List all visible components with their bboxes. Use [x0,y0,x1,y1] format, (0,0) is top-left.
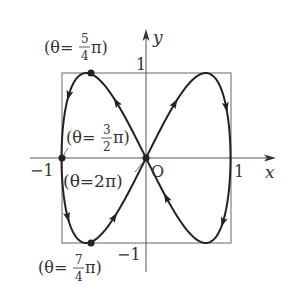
svg-text:4: 4 [81,49,89,63]
annotation-theta-5-4: (θ= 5 4 π) [44,32,108,63]
parametric-curve-figure: x y O 1 −1 1 −1 (θ= 5 4 π) (θ= 3 2 π) (θ… [0,0,295,298]
svg-text:π): π) [113,128,130,147]
y-axis-label: y [152,27,163,47]
svg-text:5: 5 [81,32,89,46]
origin-label: O [151,162,164,181]
direction-arrow-icon [218,216,228,228]
svg-text:π): π) [85,258,102,277]
direction-arrow-icon [64,90,73,102]
annotation-theta-3-2: (θ= 3 2 π) [66,123,130,154]
svg-text:3: 3 [103,123,111,137]
leader-theta-3-2 [63,148,68,156]
direction-arrow-icon [161,191,172,203]
svg-text:(θ=: (θ= [66,128,95,147]
direction-arrow-icon [169,97,180,109]
tick-y-pos: 1 [136,55,146,74]
tick-x-pos: 1 [234,162,244,181]
annotation-theta-2pi: (θ=2π) [63,171,123,191]
point-theta-3-2 [59,155,66,162]
x-axis-label: x [265,162,275,182]
svg-text:2: 2 [103,140,111,154]
point-theta-5-4 [88,70,95,77]
tick-x-neg: −1 [30,161,54,180]
svg-text:7: 7 [75,253,83,267]
tick-y-neg: −1 [117,245,141,264]
diagram-canvas: x y O 1 −1 1 −1 (θ= 5 4 π) (θ= 3 2 π) (θ… [0,0,295,298]
direction-arrow-icon [111,96,122,108]
point-origin [143,155,150,162]
svg-text:(θ=: (θ= [38,258,67,277]
svg-text:4: 4 [75,270,83,284]
annotation-theta-7-4: (θ= 7 4 π) [38,253,102,284]
point-theta-7-4 [88,240,95,247]
svg-text:π): π) [91,38,108,57]
svg-text:(θ=: (θ= [44,38,73,57]
